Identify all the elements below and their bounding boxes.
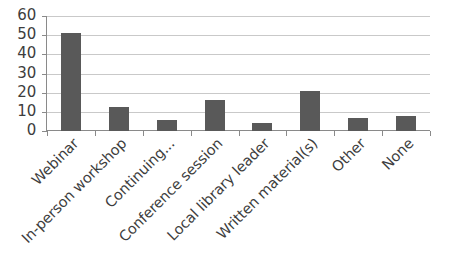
y-axis-tick-label: 40: [17, 46, 36, 61]
y-axis-tick-label: 30: [17, 66, 36, 81]
x-axis-category-text: None: [380, 136, 417, 173]
y-axis-tick-label: 20: [17, 85, 36, 100]
y-axis-tick-label: 0: [27, 123, 36, 138]
x-axis-category-text: Other: [329, 136, 368, 175]
bar-chart: 6050403020100 WebinarIn-person workshopC…: [0, 0, 450, 271]
y-axis-tick-label: 60: [17, 8, 36, 23]
x-axis-tick: [430, 131, 431, 136]
y-axis-tick-label: 10: [17, 104, 36, 119]
x-axis-labels: WebinarIn-person workshopContinuing...Co…: [47, 133, 430, 271]
x-axis-category-text: Written material(s): [215, 136, 321, 242]
bar: [61, 33, 81, 131]
y-axis-tick-label: 50: [17, 27, 36, 42]
